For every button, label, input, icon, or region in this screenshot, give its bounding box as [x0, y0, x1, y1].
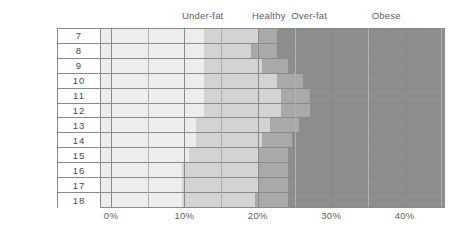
- band-healthy: [204, 44, 252, 58]
- band-obese: [292, 133, 444, 147]
- row-label-age: 11: [58, 89, 101, 103]
- chart-row: 15: [58, 148, 444, 163]
- chart-grid: 789101112131415161718: [57, 28, 445, 207]
- row-label-age: 13: [58, 118, 101, 132]
- band-over-fat: [259, 29, 277, 43]
- band-healthy: [196, 133, 262, 147]
- band-under-fat: [101, 178, 182, 192]
- band-obese: [288, 148, 444, 162]
- band-healthy: [204, 74, 277, 88]
- band-under-fat: [101, 133, 196, 147]
- row-bands: [101, 118, 444, 132]
- band-obese: [288, 193, 444, 208]
- band-healthy: [182, 178, 259, 192]
- category-label-under-fat: Under-fat: [182, 10, 223, 21]
- band-obese: [288, 59, 444, 73]
- band-healthy: [204, 29, 259, 43]
- row-bands: [101, 74, 444, 88]
- chart-row: 10: [58, 74, 444, 89]
- row-bands: [101, 89, 444, 103]
- row-bands: [101, 148, 444, 162]
- band-over-fat: [251, 44, 277, 58]
- chart-row: 9: [58, 59, 444, 74]
- band-under-fat: [101, 44, 204, 58]
- row-bands: [101, 193, 444, 208]
- band-over-fat: [262, 133, 291, 147]
- band-obese: [310, 89, 444, 103]
- row-bands: [101, 59, 444, 73]
- band-under-fat: [101, 59, 204, 73]
- x-tick-label: 20%: [248, 210, 268, 221]
- row-label-age: 8: [58, 44, 101, 58]
- band-obese: [310, 104, 444, 118]
- band-under-fat: [101, 104, 204, 118]
- band-obese: [299, 118, 444, 132]
- x-tick-label: 30%: [321, 210, 341, 221]
- row-label-age: 16: [58, 163, 101, 177]
- x-axis-line: [57, 207, 445, 208]
- band-healthy: [196, 118, 269, 132]
- row-bands: [101, 104, 444, 118]
- row-label-age: 12: [58, 104, 101, 118]
- row-label-age: 10: [58, 74, 101, 88]
- row-label-age: 15: [58, 148, 101, 162]
- band-over-fat: [259, 163, 288, 177]
- category-label-healthy: Healthy: [252, 10, 286, 21]
- band-obese: [277, 29, 444, 43]
- row-bands: [101, 133, 444, 147]
- row-bands: [101, 44, 444, 58]
- band-obese: [303, 74, 444, 88]
- band-healthy: [204, 104, 281, 118]
- band-over-fat: [281, 104, 310, 118]
- band-obese: [288, 178, 444, 192]
- chart-row: 14: [58, 133, 444, 148]
- x-tick-label: 10%: [174, 210, 194, 221]
- band-under-fat: [101, 89, 204, 103]
- row-label-age: 7: [58, 29, 101, 43]
- band-healthy: [182, 163, 259, 177]
- chart-row: 12: [58, 104, 444, 119]
- band-under-fat: [101, 163, 182, 177]
- chart-row: 7: [58, 29, 444, 44]
- category-label-over-fat: Over-fat: [291, 10, 327, 21]
- band-healthy: [204, 89, 281, 103]
- band-healthy: [189, 148, 259, 162]
- band-over-fat: [262, 59, 288, 73]
- band-over-fat: [270, 118, 299, 132]
- chart-row: 8: [58, 44, 444, 59]
- row-bands: [101, 163, 444, 177]
- body-fat-chart: Under-fatHealthyOver-fatObese 7891011121…: [0, 0, 460, 234]
- band-under-fat: [101, 118, 196, 132]
- chart-row: 17: [58, 178, 444, 193]
- band-healthy: [182, 193, 255, 208]
- chart-row: 16: [58, 163, 444, 178]
- band-under-fat: [101, 74, 204, 88]
- row-label-age: 18: [58, 193, 101, 208]
- band-under-fat: [101, 29, 204, 43]
- row-bands: [101, 178, 444, 192]
- band-under-fat: [101, 193, 182, 208]
- band-obese: [288, 163, 444, 177]
- x-tick-label: 0%: [104, 210, 118, 221]
- x-tick-label: 40%: [395, 210, 415, 221]
- row-bands: [101, 29, 444, 43]
- category-label-obese: Obese: [372, 10, 401, 21]
- band-over-fat: [281, 89, 310, 103]
- chart-row: 13: [58, 118, 444, 133]
- row-label-age: 14: [58, 133, 101, 147]
- chart-row: 11: [58, 89, 444, 104]
- band-over-fat: [277, 74, 303, 88]
- row-label-age: 9: [58, 59, 101, 73]
- band-over-fat: [255, 193, 288, 208]
- band-under-fat: [101, 148, 189, 162]
- band-over-fat: [259, 148, 288, 162]
- row-label-age: 17: [58, 178, 101, 192]
- band-over-fat: [259, 178, 288, 192]
- chart-row: 18: [58, 193, 444, 208]
- band-obese: [277, 44, 444, 58]
- band-healthy: [204, 59, 263, 73]
